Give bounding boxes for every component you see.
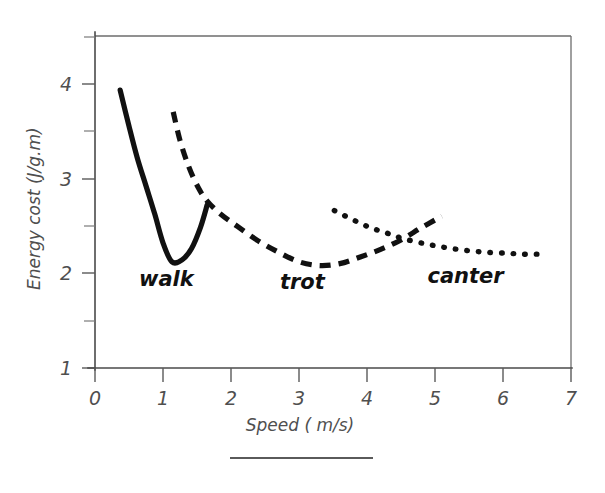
figure-container: 4 3 2 1 Energy cost (J/g.m) 0 1 2 3 4 bbox=[0, 0, 605, 493]
y-axis: 4 3 2 1 Energy cost (J/g.m) bbox=[24, 32, 95, 379]
annotation-canter: canter bbox=[427, 264, 505, 288]
x-ticklabel-7: 7 bbox=[565, 387, 577, 409]
y-ticklabel-1: 1 bbox=[60, 357, 72, 379]
y-axis-ticks bbox=[82, 37, 95, 368]
series-canter-curve bbox=[334, 211, 537, 255]
x-axis-ticks bbox=[95, 368, 571, 382]
energy-cost-speed-chart: 4 3 2 1 Energy cost (J/g.m) 0 1 2 3 4 bbox=[0, 0, 605, 493]
annotation-walk: walk bbox=[139, 267, 196, 291]
x-ticklabel-1: 1 bbox=[157, 387, 169, 409]
x-axis: 0 1 2 3 4 5 6 7 Speed ( m/s) bbox=[88, 368, 577, 435]
x-ticklabel-2: 2 bbox=[225, 387, 237, 409]
x-ticklabel-6: 6 bbox=[497, 387, 509, 409]
data-series-group bbox=[120, 90, 537, 266]
plot-frame bbox=[95, 36, 571, 368]
x-ticklabel-3: 3 bbox=[293, 387, 305, 409]
x-ticklabel-4: 4 bbox=[361, 387, 373, 409]
annotation-trot: trot bbox=[280, 270, 326, 294]
series-walk-curve bbox=[120, 90, 207, 263]
y-ticklabel-3: 3 bbox=[60, 168, 72, 190]
y-ticklabel-4: 4 bbox=[60, 73, 72, 95]
x-ticklabel-0: 0 bbox=[89, 387, 101, 409]
series-trot-curve bbox=[173, 112, 442, 266]
x-ticklabel-5: 5 bbox=[429, 387, 441, 409]
y-axis-title: Energy cost (J/g.m) bbox=[24, 127, 44, 290]
y-ticklabel-2: 2 bbox=[60, 262, 72, 284]
x-axis-title: Speed ( m/s) bbox=[246, 415, 355, 435]
